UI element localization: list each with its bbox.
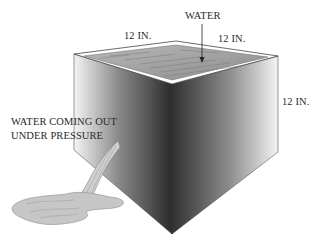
leak-label-line1: WATER COMING OUT	[11, 117, 117, 128]
depth-dimension-label: 12 IN.	[218, 34, 245, 45]
diagram-canvas: WATER 12 IN. 12 IN. 12 IN. WATER COMING …	[0, 0, 315, 243]
water-puddle	[12, 192, 123, 224]
water-label: WATER	[185, 11, 221, 22]
tank-right-face	[172, 56, 278, 234]
leak-label-line2: UNDER PRESSURE	[11, 131, 103, 142]
height-dimension-label: 12 IN.	[282, 97, 309, 108]
width-dimension-label: 12 IN.	[124, 31, 151, 42]
